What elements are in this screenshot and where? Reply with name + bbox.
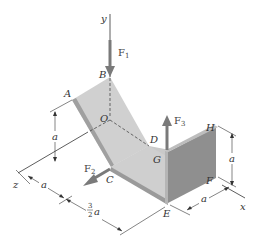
dim-label-3-2-num: 3 <box>88 202 92 210</box>
force-F3-arrowhead <box>162 115 172 126</box>
point-label-O: O <box>100 113 108 124</box>
dim-ext-E <box>120 207 165 235</box>
point-label-D: D <box>149 134 158 145</box>
point-label-G: G <box>153 154 161 165</box>
dim-arrow <box>66 199 71 203</box>
dim-label-a-HF: a <box>229 153 235 164</box>
point-label-E: E <box>162 208 171 219</box>
force-F1-label: F1 <box>118 47 129 60</box>
point-label-B: B <box>98 69 106 80</box>
dim-ext-A <box>50 100 72 112</box>
point-label-H: H <box>205 122 215 133</box>
force-F2-label: F2 <box>84 163 95 176</box>
x-axis-label: x <box>240 201 246 212</box>
dim-arrow <box>230 133 234 138</box>
dim-label-a-z: a <box>41 179 47 190</box>
dim-arrow <box>187 206 192 210</box>
force-F3-label: F3 <box>174 115 185 128</box>
dim-arrow <box>53 157 57 162</box>
dim-label-a-EF: a <box>201 193 207 204</box>
dim-label-a-left: a <box>52 131 58 142</box>
dim-arrow <box>59 194 64 198</box>
x-axis <box>222 185 245 198</box>
dim-label-3-2-var: a <box>94 206 100 217</box>
z-axis-label: z <box>12 179 19 190</box>
dim-arrow <box>53 111 57 116</box>
y-axis-label: y <box>100 13 107 24</box>
point-label-A: A <box>63 88 71 99</box>
statics-diagram: y z x F1 F3 F2 A B O C D G H F E a <box>0 0 258 237</box>
plate-right-inner <box>165 151 168 205</box>
point-label-C: C <box>106 174 114 185</box>
dim-arrow <box>117 227 122 231</box>
dim-arrow <box>224 187 229 191</box>
dim-label-3-2-den: 2 <box>88 211 92 219</box>
dim-arrow <box>28 176 33 180</box>
point-label-F: F <box>205 175 214 186</box>
force-F1-arrowhead <box>105 66 115 77</box>
dim-ext-H <box>218 126 236 136</box>
